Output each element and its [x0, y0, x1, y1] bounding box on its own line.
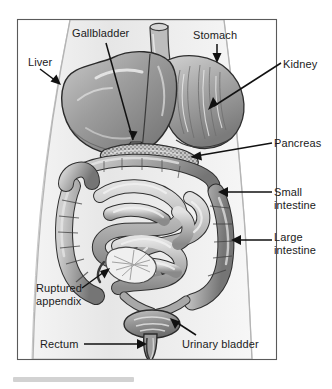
label-large-intestine-line2: intestine: [274, 244, 316, 257]
label-small-intestine-line2: intestine: [274, 199, 316, 212]
label-pancreas: Pancreas: [274, 137, 321, 150]
label-ruptured-appendix-line1: Ruptured: [36, 282, 82, 295]
label-urinary-bladder: Urinary bladder: [182, 338, 259, 351]
caption-bar: [13, 377, 134, 382]
label-small-intestine: Small intestine: [274, 186, 316, 211]
label-ruptured-appendix: Ruptured appendix: [36, 282, 82, 307]
label-kidney: Kidney: [283, 58, 317, 71]
label-gallbladder: Gallbladder: [72, 27, 129, 40]
label-liver: Liver: [28, 56, 52, 69]
label-large-intestine-line1: Large: [274, 231, 316, 244]
label-rectum: Rectum: [40, 338, 79, 351]
label-large-intestine: Large intestine: [274, 231, 316, 256]
label-stomach: Stomach: [193, 29, 237, 42]
label-small-intestine-line1: Small: [274, 186, 316, 199]
label-ruptured-appendix-line2: appendix: [36, 295, 82, 308]
